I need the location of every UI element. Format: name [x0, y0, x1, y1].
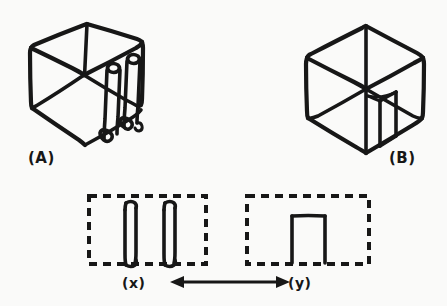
prong-far-top-ellipse — [108, 64, 120, 73]
cube-a-vertical-back-edge — [84, 24, 87, 75]
cube-a-bottom-left-edge — [32, 108, 85, 145]
detail-y-label: (y) — [288, 275, 311, 291]
figure-canvas: (A) — [0, 0, 447, 306]
cube-a-left-vertical-edge — [30, 48, 32, 108]
figure-a-group: (A) — [28, 24, 143, 167]
cube-a-top-frontleft-edge — [31, 48, 84, 75]
cube-b-bottom-left-edge — [308, 118, 366, 153]
figure-b-group: (B) — [306, 26, 424, 167]
cube-a-right-vertical-edge — [141, 42, 143, 105]
prong-near-bottom-cap — [135, 123, 142, 131]
figure-b-label: (B) — [389, 149, 416, 167]
impossible-cubes-figure: (A) — [0, 0, 447, 306]
prong-far-bottom-ellipse — [100, 130, 112, 142]
cube-a-top-frontright-edge — [84, 43, 142, 75]
rect-y-top-edge — [292, 216, 325, 217]
cube-b-inner-left-edge — [307, 58, 366, 89]
detail-y-dashed-region — [247, 196, 369, 264]
cube-a-diag-center-right — [84, 75, 139, 107]
cube-b-right-vertical-edge — [422, 58, 424, 118]
prong-x-left-side-a — [125, 210, 126, 265]
cube-b-wireframe — [306, 26, 424, 153]
detail-x-group: (x) — [89, 196, 206, 291]
detail-x-dashed-region — [89, 196, 206, 264]
cube-a-top-right-edge — [87, 24, 142, 42]
arrow-head-left-icon — [170, 276, 184, 288]
cube-b-left-vertical-edge — [306, 58, 308, 118]
double-headed-arrow — [170, 276, 290, 288]
detail-x-prong-right — [164, 202, 175, 267]
detail-x-label: (x) — [122, 275, 145, 291]
cube-b-block — [368, 92, 396, 146]
detail-y-group: (y) — [247, 196, 369, 291]
prong-x-right-side-a — [164, 210, 165, 265]
figure-a-label: (A) — [28, 149, 55, 167]
cube-a-prong-near — [120, 55, 142, 132]
cube-b-top-left-edge — [307, 26, 366, 58]
prong-x-left-side-b — [135, 208, 136, 263]
cube-b-top-right-edge — [366, 26, 423, 58]
cube-a-diag-left-lower — [32, 75, 84, 108]
detail-y-rectangle — [292, 216, 325, 264]
cube-b-diag-left-lower — [308, 89, 366, 118]
prong-near-top-ellipse — [128, 55, 140, 64]
prong-x-right-side-b — [174, 208, 175, 263]
detail-x-prong-left — [125, 202, 136, 267]
cube-a-top-left-edge — [31, 24, 87, 48]
cube-b-inner-right-edge — [366, 58, 423, 89]
